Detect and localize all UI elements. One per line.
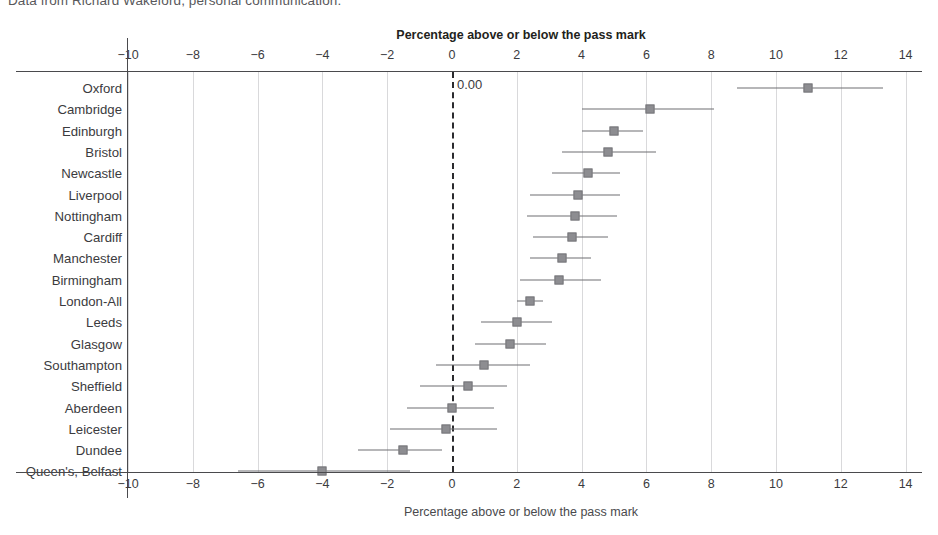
- data-point-marker: [584, 169, 593, 178]
- x-tick-label: −2: [380, 48, 394, 62]
- forest-plot: Percentage above or below the pass mark …: [0, 0, 938, 535]
- x-tick-label: −8: [186, 48, 200, 62]
- category-label: Sheffield: [2, 379, 122, 394]
- gridline: [387, 72, 388, 472]
- x-tick-label: 4: [578, 477, 585, 491]
- category-label: London-All: [2, 294, 122, 309]
- category-label: Manchester: [2, 251, 122, 266]
- data-point-marker: [603, 147, 612, 156]
- zero-reference-line: [452, 72, 454, 472]
- x-tick-label: 6: [643, 48, 650, 62]
- x-tick-label: 8: [708, 48, 715, 62]
- x-tick-label: 14: [899, 48, 913, 62]
- x-tick-label: 6: [643, 477, 650, 491]
- zero-reference-label: 0.00: [457, 77, 482, 92]
- x-tick-label: 4: [578, 48, 585, 62]
- data-point-marker: [448, 403, 457, 412]
- axis-rule-bottom: [16, 472, 922, 473]
- chart-page: Data from Richard Wakeford, personal com…: [0, 0, 938, 535]
- x-tick-label: −4: [315, 48, 329, 62]
- data-point-marker: [645, 105, 654, 114]
- gridline: [841, 72, 842, 472]
- category-label: Cardiff: [2, 230, 122, 245]
- x-axis-ticks-bottom: −10−8−6−4−202468101214: [0, 477, 938, 495]
- data-point-marker: [512, 318, 521, 327]
- x-tick-label: −10: [117, 48, 138, 62]
- x-tick-label: −2: [380, 477, 394, 491]
- data-point-marker: [480, 360, 489, 369]
- x-tick-label: 12: [834, 477, 848, 491]
- data-point-marker: [571, 211, 580, 220]
- category-label: Dundee: [2, 443, 122, 458]
- gridline: [193, 72, 194, 472]
- x-tick-label: 2: [513, 477, 520, 491]
- category-label: Oxford: [2, 81, 122, 96]
- category-label: Southampton: [2, 357, 122, 372]
- category-label: Liverpool: [2, 187, 122, 202]
- x-tick-label: −6: [250, 477, 264, 491]
- gridline: [322, 72, 323, 472]
- gridline: [776, 72, 777, 472]
- category-label: Glasgow: [2, 336, 122, 351]
- x-tick-label: 2: [513, 48, 520, 62]
- data-point-marker: [506, 339, 515, 348]
- data-point-marker: [574, 190, 583, 199]
- x-tick-label: 10: [769, 477, 783, 491]
- x-tick-label: −6: [250, 48, 264, 62]
- category-label: Newcastle: [2, 166, 122, 181]
- category-label: Aberdeen: [2, 400, 122, 415]
- x-tick-label: 8: [708, 477, 715, 491]
- category-label: Cambridge: [2, 102, 122, 117]
- chart-title-top: Percentage above or below the pass mark: [0, 28, 938, 42]
- gridline: [906, 72, 907, 472]
- category-label: Nottingham: [2, 208, 122, 223]
- data-point-marker: [804, 84, 813, 93]
- axis-rule-top: [16, 71, 922, 72]
- x-tick-label: 0: [449, 477, 456, 491]
- gridline: [517, 72, 518, 472]
- gridline: [711, 72, 712, 472]
- x-axis-ticks-top: −10−8−6−4−202468101214: [0, 48, 938, 66]
- x-tick-label: 14: [899, 477, 913, 491]
- gridline: [128, 72, 129, 472]
- category-label: Birmingham: [2, 272, 122, 287]
- data-point-marker: [399, 446, 408, 455]
- data-point-marker: [464, 382, 473, 391]
- category-label: Leeds: [2, 315, 122, 330]
- data-point-marker: [554, 275, 563, 284]
- x-tick-label: 12: [834, 48, 848, 62]
- gridline: [646, 72, 647, 472]
- x-axis-label-bottom: Percentage above or below the pass mark: [0, 505, 938, 519]
- x-tick-label: −8: [186, 477, 200, 491]
- data-point-marker: [525, 297, 534, 306]
- x-tick-label: 0: [449, 48, 456, 62]
- data-point-marker: [567, 233, 576, 242]
- category-label: Bristol: [2, 144, 122, 159]
- x-tick-label: −10: [117, 477, 138, 491]
- data-point-marker: [441, 424, 450, 433]
- x-tick-label: 10: [769, 48, 783, 62]
- gridline: [582, 72, 583, 472]
- category-label: Edinburgh: [2, 123, 122, 138]
- data-point-marker: [610, 126, 619, 135]
- data-point-marker: [558, 254, 567, 263]
- x-tick-label: −4: [315, 477, 329, 491]
- category-label: Leicester: [2, 421, 122, 436]
- gridline: [258, 72, 259, 472]
